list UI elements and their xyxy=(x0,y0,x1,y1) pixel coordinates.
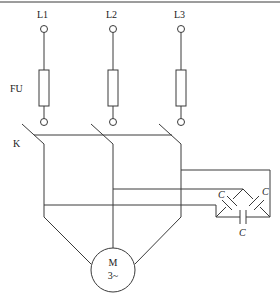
terminal-bottom-l1 xyxy=(41,119,48,126)
terminal-top-l2 xyxy=(110,26,117,33)
switch-label: K xyxy=(13,138,21,149)
terminal-top-l3 xyxy=(178,26,185,33)
motor-label: M xyxy=(109,257,118,268)
terminal-bottom-l3 xyxy=(178,119,185,126)
switch-blade-l1 xyxy=(22,124,44,144)
fuse-l3 xyxy=(176,70,186,106)
phase-l3-branch xyxy=(135,26,186,265)
capacitor-label-right: C xyxy=(262,186,269,197)
phase-l2-branch xyxy=(91,26,118,249)
capacitor-label-bottom: C xyxy=(239,227,246,238)
switch-blade-l3 xyxy=(159,124,181,144)
capacitor-right-plate-2 xyxy=(254,200,264,210)
capacitor-right-plate-1 xyxy=(249,196,259,206)
terminal-top-l1 xyxy=(41,26,48,33)
capacitor-left-plate-2 xyxy=(227,196,237,206)
motor-phase-label: 3~ xyxy=(108,270,119,281)
terminal-bottom-l2 xyxy=(110,119,117,126)
fuse-label: FU xyxy=(10,83,24,94)
phase-l1-branch xyxy=(22,26,91,265)
fuse-l2 xyxy=(108,70,118,106)
switch-blade-l2 xyxy=(91,124,113,144)
fuse-l1 xyxy=(39,70,49,106)
capacitor-label-left: C xyxy=(218,189,225,200)
phase-label-l2: L2 xyxy=(106,9,117,20)
capacitor-left-plate-1 xyxy=(222,200,232,210)
phase-label-l3: L3 xyxy=(174,9,185,20)
circuit-diagram: L1 L2 L3 FU K xyxy=(0,0,280,299)
phase-label-l1: L1 xyxy=(37,9,48,20)
